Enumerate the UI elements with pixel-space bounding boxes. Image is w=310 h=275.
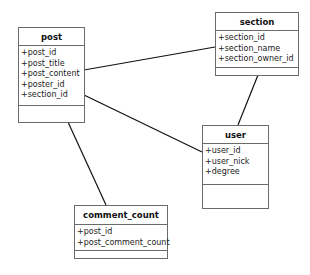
- attribute: +post_comment_count: [77, 238, 167, 249]
- attribute: +post_content: [21, 69, 84, 80]
- class-name: section: [216, 13, 298, 31]
- attribute: +section_id: [21, 90, 84, 101]
- attribute: +section_name: [218, 44, 298, 55]
- attribute: +post_id: [77, 227, 167, 238]
- attribute-list: +post_id +post_comment_count: [75, 225, 167, 251]
- class-user[interactable]: user +user_id +user_nick +degree: [202, 125, 269, 209]
- attribute: +poster_id: [21, 80, 84, 91]
- class-name: comment_count: [75, 206, 167, 225]
- association-section-user: [238, 75, 258, 125]
- association-post-section: [84, 47, 215, 70]
- association-post-user: [84, 95, 202, 152]
- class-name: post: [19, 28, 84, 46]
- attribute: +user_nick: [205, 157, 268, 168]
- attribute: +user_id: [205, 146, 268, 157]
- attribute: +post_id: [21, 48, 84, 59]
- attribute: +post_title: [21, 59, 84, 70]
- association-post-comment-count: [68, 122, 106, 205]
- class-comment-count[interactable]: comment_count +post_id +post_comment_cou…: [74, 205, 168, 259]
- attribute: +section_id: [218, 33, 298, 44]
- attribute-list: +user_id +user_nick +degree: [203, 144, 268, 185]
- attribute: +degree: [205, 167, 268, 178]
- attribute: +section_owner_id: [218, 54, 298, 65]
- class-name: user: [203, 126, 268, 144]
- class-section[interactable]: section +section_id +section_name +secti…: [215, 12, 299, 76]
- attribute-list: +post_id +post_title +post_content +post…: [19, 46, 84, 106]
- attribute-list: +section_id +section_name +section_owner…: [216, 31, 298, 68]
- class-post[interactable]: post +post_id +post_title +post_content …: [18, 27, 85, 123]
